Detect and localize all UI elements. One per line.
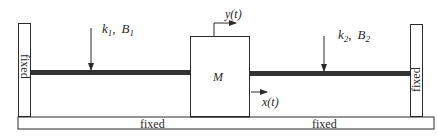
left-spring-damper: k1,B1 bbox=[31, 21, 190, 75]
ground-label-right: fixed bbox=[312, 117, 337, 131]
y-arrow-icon bbox=[214, 23, 236, 36]
mechanical-diagram: fixed fixed fixed fixed k1,B1 M y(t) k2,… bbox=[0, 0, 437, 138]
left-wall: fixed bbox=[18, 24, 32, 117]
mass-block: M bbox=[191, 37, 250, 117]
mass-label: M bbox=[212, 70, 224, 84]
right-spring-damper: k2,B2 bbox=[250, 27, 410, 76]
output-displacement: x(t) bbox=[251, 92, 279, 109]
input-displacement: y(t) bbox=[214, 7, 242, 36]
right-wall: fixed bbox=[409, 25, 423, 117]
right-element-label: k2,B2 bbox=[338, 27, 370, 44]
ground-fixed: fixed fixed bbox=[18, 116, 434, 131]
right-wall-label: fixed bbox=[409, 67, 423, 92]
x-label: x(t) bbox=[261, 95, 279, 109]
ground-label-left: fixed bbox=[140, 117, 165, 131]
y-label: y(t) bbox=[224, 7, 242, 21]
left-element-label: k1,B1 bbox=[102, 21, 134, 38]
left-wall-label: fixed bbox=[18, 54, 32, 79]
